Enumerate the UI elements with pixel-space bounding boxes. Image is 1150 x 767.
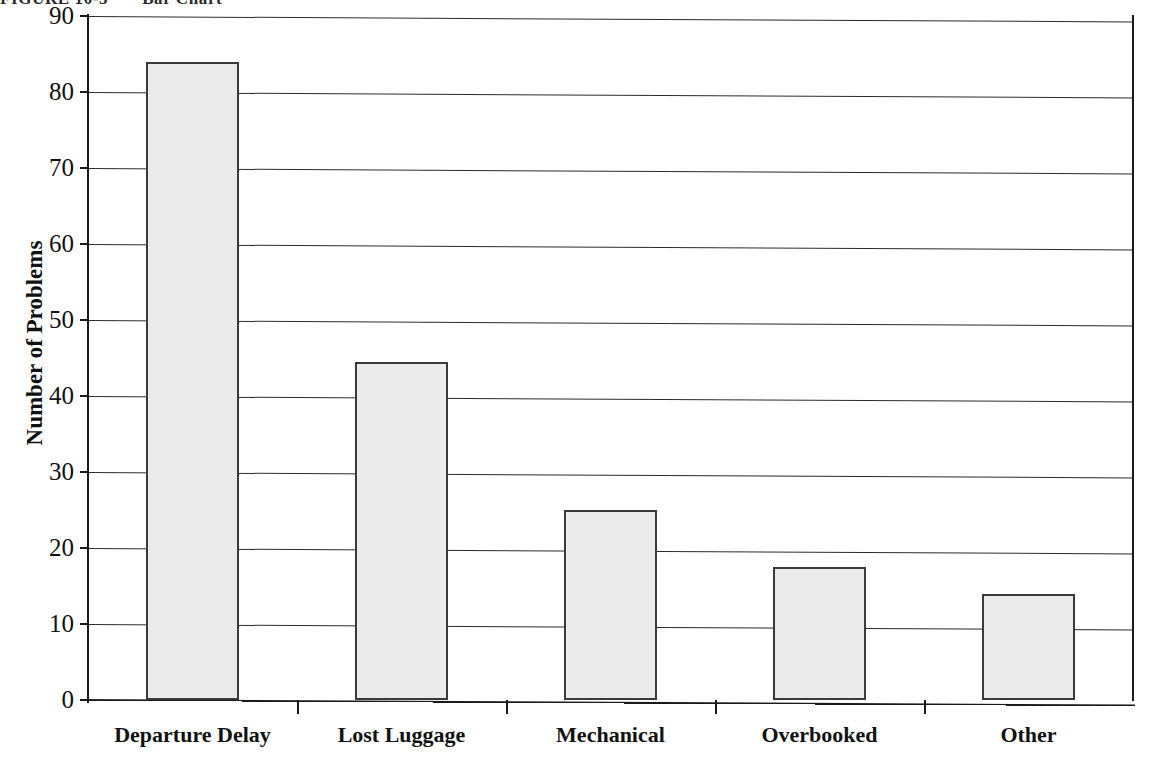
y-axis-tick-label: 20 — [14, 535, 74, 560]
y-axis-tick-label: 50 — [14, 307, 74, 332]
x-axis-category-label: Lost Luggage — [297, 722, 506, 748]
x-axis-tick — [506, 700, 508, 714]
y-axis-tick-label: 0 — [14, 687, 74, 712]
x-axis-category-label: Departure Delay — [88, 722, 297, 748]
x-axis-category-label: Other — [924, 722, 1133, 748]
bar — [982, 594, 1075, 700]
bar — [564, 510, 657, 700]
bar-chart-figure: Number of Problems 9080706050403020100 D… — [0, 0, 1150, 767]
x-axis-tick — [924, 700, 926, 714]
y-axis-tick-label: 80 — [14, 79, 74, 104]
y-axis-tick-label: 70 — [14, 155, 74, 180]
x-axis-tick — [715, 700, 717, 714]
y-axis-tick-label: 60 — [14, 231, 74, 256]
gridline — [88, 168, 1133, 174]
gridline — [88, 472, 1133, 478]
bar — [355, 362, 448, 700]
x-axis-category-label: Overbooked — [715, 722, 924, 748]
y-axis-tick-label: 90 — [14, 3, 74, 28]
bar — [146, 62, 239, 700]
x-axis-category-label: Mechanical — [506, 722, 715, 748]
gridline — [88, 16, 1133, 22]
y-axis-tick-label: 10 — [14, 611, 74, 636]
x-axis-line — [80, 699, 1135, 708]
y-axis-tick-label: 40 — [14, 383, 74, 408]
y-axis-tick-label: 30 — [14, 459, 74, 484]
gridline — [88, 92, 1133, 98]
gridline — [88, 396, 1133, 402]
x-axis-tick — [297, 700, 299, 714]
bar — [773, 567, 866, 700]
gridline — [88, 244, 1133, 250]
y-axis-line — [87, 14, 89, 703]
gridline — [88, 320, 1133, 326]
plot-right-border — [1132, 15, 1134, 701]
